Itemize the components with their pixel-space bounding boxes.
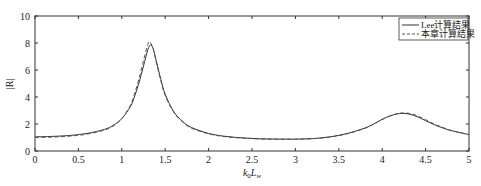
y-tick-label: 4 [25, 92, 30, 103]
y-tick-label: 10 [20, 11, 30, 22]
x-tick-label: 3.5 [333, 154, 346, 165]
x-tick-label: 3 [293, 154, 298, 165]
series-group [35, 41, 469, 139]
y-tick-label: 6 [25, 65, 30, 76]
y-tick-label: 2 [25, 119, 30, 130]
y-axis-label-text: |R| [4, 79, 15, 90]
x-tick-label: 4 [380, 154, 385, 165]
x-tick-label: 0.5 [72, 154, 85, 165]
y-axis-label: |R| [4, 79, 15, 90]
legend: Lee计算结果本章计算结果 [399, 18, 475, 40]
x-tick-label: 1 [119, 154, 124, 165]
x-tick-label: 5 [467, 154, 472, 165]
x-tick-label: 2.5 [246, 154, 259, 165]
x-tick-label: 4.5 [419, 154, 432, 165]
series-this-chapter-line [35, 41, 469, 139]
chart: 00.511.522.533.544.550246810 |R| k0Lw Le… [0, 0, 481, 186]
x-tick-label: 2 [206, 154, 211, 165]
series-lee-line [35, 45, 469, 139]
x-tick-label: 0 [33, 154, 38, 165]
x-axis-label: k0Lw [243, 167, 262, 180]
x-tick-label: 1.5 [159, 154, 172, 165]
x-axis-label-text: k0Lw [243, 167, 262, 180]
y-tick-label: 0 [25, 146, 30, 157]
y-tick-label: 8 [25, 38, 30, 49]
legend-label-this-chapter: 本章计算结果 [421, 28, 475, 39]
